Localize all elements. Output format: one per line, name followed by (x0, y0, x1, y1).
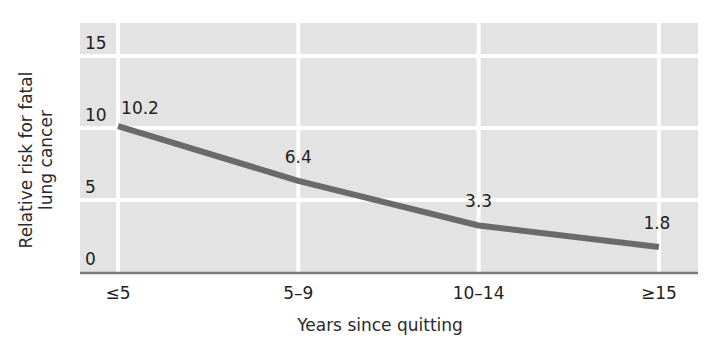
y-tick-label: 0 (85, 249, 96, 269)
y-axis-title-line-2: lung cancer (36, 72, 56, 249)
y-tick-label: 15 (85, 33, 107, 53)
line-chart: 051015 ≤55–910–14≥15 10.26.43.31.8 (0, 0, 713, 352)
x-axis-title: Years since quitting (230, 315, 530, 335)
y-tick-label: 10 (85, 105, 107, 125)
x-tick-label: 5–9 (283, 283, 313, 303)
data-label: 1.8 (643, 213, 670, 233)
y-axis-title-line-1: Relative risk for fatal (16, 72, 36, 249)
plot-background (80, 23, 698, 273)
data-label: 6.4 (285, 147, 312, 167)
x-tick-labels: ≤55–910–14≥15 (105, 283, 676, 303)
x-tick-label: 10–14 (453, 283, 505, 303)
y-tick-label: 5 (85, 177, 96, 197)
data-label: 10.2 (121, 98, 159, 118)
data-label: 3.3 (465, 191, 492, 211)
y-axis-title: Relative risk for fatal lung cancer (6, 60, 66, 260)
x-tick-label: ≥15 (641, 283, 677, 303)
x-tick-label: ≤5 (105, 283, 130, 303)
